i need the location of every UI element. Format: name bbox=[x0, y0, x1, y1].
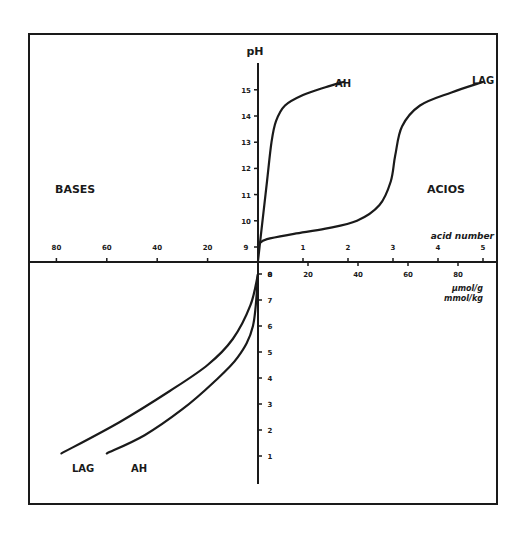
acid-number-label: acid number bbox=[431, 231, 495, 241]
mmol-kg-label: mmol/kg bbox=[444, 294, 483, 303]
y-tick-label: 9 bbox=[244, 244, 249, 252]
y-tick-label: 10 bbox=[241, 218, 251, 226]
y-tick-label: 3 bbox=[268, 401, 273, 409]
base-tick-label: 80 bbox=[52, 244, 62, 252]
curve-ah-bases bbox=[107, 274, 258, 453]
region-label-acids: ACIOS bbox=[427, 183, 465, 196]
series-label-lag-base: LAG bbox=[72, 463, 94, 474]
umol-tick-label: 40 bbox=[353, 271, 363, 279]
acid-number-tick-label: 5 bbox=[481, 244, 486, 252]
umol-tick-label: 20 bbox=[303, 271, 313, 279]
y-tick-label: 6 bbox=[268, 323, 273, 331]
y-tick-label: 2 bbox=[268, 427, 273, 435]
acid-number-tick-label: 2 bbox=[346, 244, 351, 252]
y-tick-label: 14 bbox=[241, 113, 251, 121]
y-axis-label: pH bbox=[246, 45, 263, 58]
base-tick-label: 20 bbox=[203, 244, 213, 252]
acid-number-tick-label: 1 bbox=[301, 244, 306, 252]
series-label-ah-base: AH bbox=[131, 463, 147, 474]
acid-number-tick-label: 4 bbox=[436, 244, 441, 252]
y-tick-label: 13 bbox=[241, 139, 251, 147]
series-label-ah-acid: AH bbox=[335, 78, 351, 89]
umol-tick-label: 0 bbox=[268, 271, 273, 279]
chart-canvas: 9101112131415876543211234502040608080604… bbox=[0, 0, 530, 536]
umol-g-label: μmol/g bbox=[451, 284, 483, 293]
base-tick-label: 40 bbox=[152, 244, 162, 252]
y-tick-label: 5 bbox=[268, 349, 273, 357]
region-label-bases: BASES bbox=[55, 183, 95, 196]
curve-lag-acids bbox=[258, 82, 483, 244]
axis-tick-labels: 9101112131415876543211234502040608080604… bbox=[52, 87, 486, 461]
base-tick-label: 60 bbox=[102, 244, 112, 252]
y-tick-label: 7 bbox=[268, 297, 273, 305]
y-tick-label: 12 bbox=[241, 165, 251, 173]
y-tick-label: 4 bbox=[268, 375, 273, 383]
y-tick-label: 1 bbox=[268, 453, 273, 461]
umol-tick-label: 60 bbox=[403, 271, 413, 279]
acid-number-tick-label: 3 bbox=[391, 244, 396, 252]
series-label-lag-acid: LAG bbox=[472, 75, 494, 86]
y-tick-label: 15 bbox=[241, 87, 251, 95]
curves bbox=[61, 82, 483, 453]
y-tick-label: 11 bbox=[241, 192, 251, 200]
curve-ah-acids bbox=[258, 82, 344, 261]
umol-tick-label: 80 bbox=[453, 271, 463, 279]
